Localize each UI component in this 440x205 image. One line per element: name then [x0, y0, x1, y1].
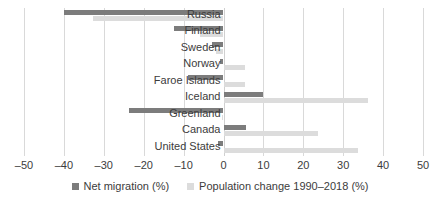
x-tick-label--20: –20 [135, 158, 153, 173]
x-tick-label--10: –10 [174, 158, 192, 173]
category-label-sweden: Sweden [181, 40, 224, 54]
category-label-united-states: United States [154, 139, 223, 153]
bar-row: Norway [24, 57, 423, 73]
legend-label: Population change 1990–2018 (%) [199, 180, 368, 192]
category-label-greenland: Greenland [169, 106, 223, 120]
x-tick-label-20: 20 [297, 158, 309, 173]
bar-row: Iceland [24, 90, 423, 106]
x-tick-label--30: –30 [95, 158, 113, 173]
bar-canada-population-change [224, 131, 318, 136]
category-label-finland: Finland [184, 23, 223, 37]
bar-united-states-population-change [224, 148, 358, 153]
x-tick-label-10: 10 [257, 158, 269, 173]
x-tick-label-0: 0 [220, 158, 226, 173]
bar-row: Faroe Islands [24, 74, 423, 90]
category-label-russia: Russia [187, 7, 224, 21]
category-label-norway: Norway [183, 56, 223, 70]
plot-area: RussiaFinlandSwedenNorwayFaroe IslandsIc… [24, 8, 423, 156]
bar-row: United States [24, 140, 423, 156]
bar-iceland-population-change [224, 98, 369, 103]
bar-row: Russia [24, 8, 423, 24]
x-tick-label-40: 40 [377, 158, 389, 173]
chart-legend: Net migration (%)Population change 1990–… [0, 180, 440, 192]
x-tick-label-50: 50 [417, 158, 429, 173]
category-label-iceland: Iceland [185, 89, 223, 103]
gridline-50 [423, 8, 424, 156]
bar-rows: RussiaFinlandSwedenNorwayFaroe IslandsIc… [24, 8, 423, 156]
bar-row: Sweden [24, 41, 423, 57]
category-label-canada: Canada [182, 122, 224, 136]
category-label-faroe-islands: Faroe Islands [154, 73, 224, 87]
x-tick-label-30: 30 [337, 158, 349, 173]
legend-item-net-migration[interactable]: Net migration (%) [72, 180, 170, 192]
legend-label: Net migration (%) [84, 180, 170, 192]
x-tick-label--50: –50 [15, 158, 33, 173]
bar-faroe-islands-population-change [224, 82, 246, 87]
legend-swatch-icon [72, 183, 79, 190]
bar-canada-net-migration [224, 125, 247, 130]
bar-norway-population-change [224, 65, 246, 70]
bar-row: Canada [24, 123, 423, 139]
x-axis: –50–40–30–20–1001020304050 [24, 158, 423, 174]
bar-row: Finland [24, 24, 423, 40]
legend-swatch-icon [187, 183, 194, 190]
bar-row: Greenland [24, 107, 423, 123]
bar-chart: RussiaFinlandSwedenNorwayFaroe IslandsIc… [0, 0, 440, 205]
x-tick-label--40: –40 [55, 158, 73, 173]
legend-item-population-change[interactable]: Population change 1990–2018 (%) [187, 180, 368, 192]
bar-iceland-net-migration [224, 92, 264, 97]
